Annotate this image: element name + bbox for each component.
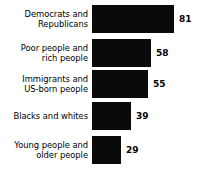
bar-value-label: 55 xyxy=(148,79,166,89)
category-label: Blacks and whites xyxy=(0,111,92,121)
chart-row: Democrats and Republicans 81 xyxy=(0,5,208,33)
chart-row: Poor people and rich people 58 xyxy=(0,39,208,67)
bar-value-label: 81 xyxy=(174,14,192,24)
category-label: Young people and older people xyxy=(0,140,92,160)
chart-row: Young people and older people 29 xyxy=(0,136,208,164)
bar-fill xyxy=(92,70,148,98)
bar-fill xyxy=(92,39,151,67)
bar-track: 29 xyxy=(92,136,208,164)
bar-value-label: 58 xyxy=(151,48,169,58)
bar-value-label: 39 xyxy=(131,111,149,121)
bar-chart: Democrats and Republicans 81 Poor people… xyxy=(0,0,208,171)
bar-track: 81 xyxy=(92,5,208,33)
bar-fill xyxy=(92,136,121,164)
chart-row: Blacks and whites 39 xyxy=(0,102,208,130)
bar-fill xyxy=(92,5,174,33)
bar-value-label: 29 xyxy=(121,145,139,155)
bar-track: 39 xyxy=(92,102,208,130)
category-label: Democrats and Republicans xyxy=(0,9,92,29)
bar-track: 55 xyxy=(92,70,208,98)
bar-track: 58 xyxy=(92,39,208,67)
category-label: Immigrants and US-born people xyxy=(0,74,92,94)
category-label: Poor people and rich people xyxy=(0,43,92,63)
bar-fill xyxy=(92,102,131,130)
chart-row: Immigrants and US-born people 55 xyxy=(0,70,208,98)
